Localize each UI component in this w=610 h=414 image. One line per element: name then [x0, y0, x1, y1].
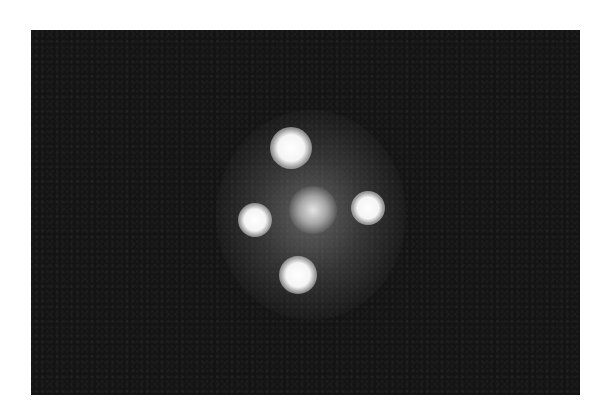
astronomical-image [31, 30, 580, 395]
quasar-image-right [351, 191, 385, 225]
quasar-image-left [238, 203, 272, 237]
quasar-image-top [270, 127, 312, 169]
lens-galaxy-core [289, 186, 337, 234]
quasar-image-bottom [279, 256, 317, 294]
